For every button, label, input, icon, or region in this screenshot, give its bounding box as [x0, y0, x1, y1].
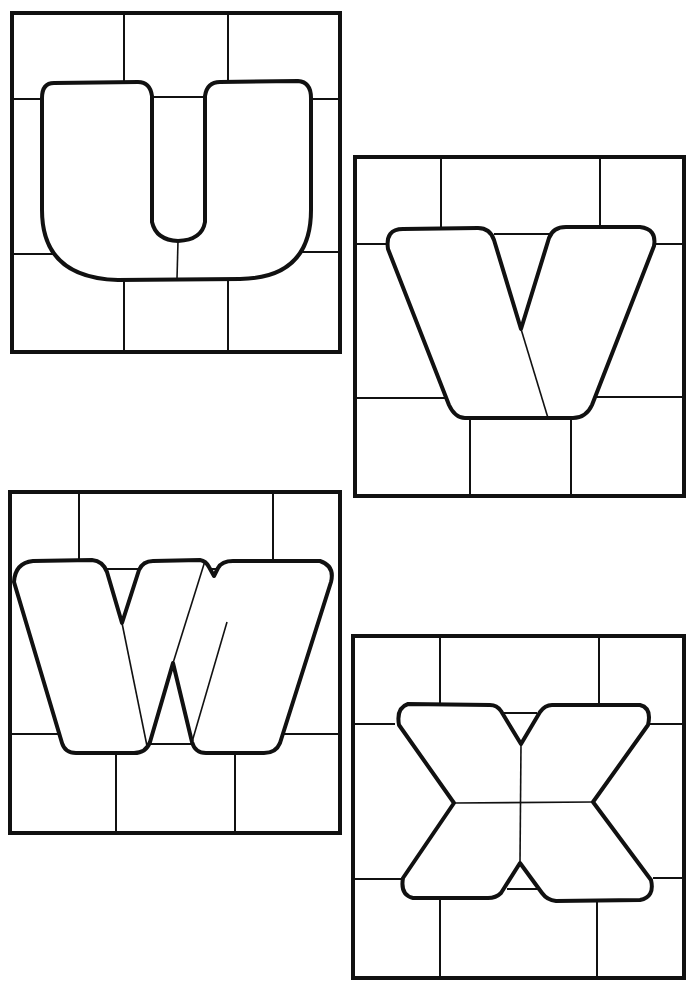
panel-letter-w: [10, 492, 340, 833]
panel-letter-v: [355, 157, 684, 496]
panel-letter-x: [353, 636, 684, 978]
letter-sheet: [0, 0, 696, 988]
panel-letter-u: [12, 13, 340, 352]
